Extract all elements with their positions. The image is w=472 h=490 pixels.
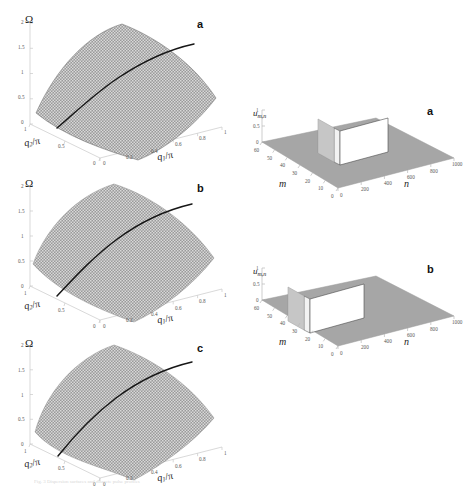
z-axis-label-left-c: Ω (25, 337, 33, 349)
y-tick-left-a-0: 0 (93, 160, 96, 166)
m-tick-right-a-0: 0 (331, 193, 334, 199)
m-tick-right-a-60: 60 (254, 147, 259, 153)
z-tick-left-b-05: 0.5 (18, 258, 24, 264)
x-tick-left-a-02: 0.2 (126, 154, 132, 160)
z-tick-left-a-15: 1.5 (18, 44, 24, 50)
z-tick-right-b-1: 1 (256, 265, 259, 271)
x-tick-left-c-1: 1 (224, 450, 227, 456)
z-tick-left-a-05: 0.5 (18, 94, 24, 100)
n-tick-right-a-0: 0 (340, 192, 343, 198)
figure-canvas: a Ω 2 1.5 1 0.5 0 1 0.5 0 0 0.2 0.4 0.6 … (0, 0, 472, 490)
x-tick-left-a-08: 0.8 (199, 135, 205, 141)
x-tick-left-b-08: 0.8 (199, 298, 205, 304)
m-tick-right-a-30: 30 (292, 170, 297, 176)
z-axis-label-left-b: Ω (25, 177, 33, 189)
m-tick-right-b-50: 50 (267, 313, 272, 319)
m-tick-right-b-40: 40 (280, 320, 285, 326)
n-tick-right-a-800: 800 (430, 168, 438, 174)
z-tick-left-c-05: 0.5 (18, 416, 24, 422)
z-tick-left-b-0: 0 (21, 283, 24, 289)
m-tick-right-b-20: 20 (305, 336, 310, 342)
n-tick-right-b-200: 200 (361, 344, 369, 350)
x-tick-left-b-06: 0.6 (175, 305, 181, 311)
panel-letter-left-c: c (197, 342, 203, 354)
m-tick-right-a-50: 50 (267, 155, 272, 161)
n-tick-right-b-800: 800 (430, 326, 438, 332)
x-tick-left-c-08: 0.8 (199, 456, 205, 462)
x-tick-left-b-0: 0 (103, 323, 106, 329)
n-tick-right-b-1000: 1000 (452, 319, 462, 325)
z-tick-left-a-1: 1 (21, 69, 24, 75)
z-tick-left-c-1: 1 (21, 392, 24, 398)
z-tick-right-a-05: 0.5 (253, 123, 259, 129)
z-tick-right-b-0: 0 (256, 297, 259, 303)
x-tick-left-b-1: 1 (224, 292, 227, 298)
z-tick-left-b-2: 2 (21, 183, 24, 189)
z-tick-left-b-15: 1.5 (18, 208, 24, 214)
n-tick-right-a-1000: 1000 (452, 161, 462, 167)
y-tick-left-c-05: 0.5 (58, 465, 64, 471)
n-tick-right-b-400: 400 (384, 338, 392, 344)
x-tick-left-c-06: 0.6 (175, 463, 181, 469)
z-tick-left-c-2: 2 (21, 342, 24, 348)
n-tick-right-b-0: 0 (340, 350, 343, 356)
z-axis-label-right-b: um,n (253, 266, 266, 277)
y-tick-left-b-0: 0 (93, 323, 96, 329)
y-tick-left-a-1: 1 (24, 126, 27, 132)
z-tick-left-c-15: 1.5 (18, 367, 24, 373)
panel-letter-right-a: a (427, 105, 433, 117)
panel-letter-right-b: b (427, 263, 434, 275)
z-tick-left-a-0: 0 (21, 119, 24, 125)
m-tick-right-b-10: 10 (318, 343, 323, 349)
x-tick-left-b-02: 0.2 (126, 317, 132, 323)
z-tick-right-a-0: 0 (256, 139, 259, 145)
y-tick-left-a-05: 0.5 (58, 143, 64, 149)
x-axis-label-left-a: q1/π (156, 149, 174, 163)
m-axis-label-right-a: m (279, 178, 286, 189)
z-tick-left-c-0: 0 (21, 441, 24, 447)
panel-letter-left-a: a (197, 18, 203, 30)
y-tick-left-b-1: 1 (24, 290, 27, 296)
n-tick-right-a-200: 200 (361, 186, 369, 192)
n-axis-label-right-b: n (404, 336, 409, 347)
x-tick-left-a-0: 0 (103, 160, 106, 166)
m-axis-label-right-b: m (279, 336, 286, 347)
n-axis-label-right-a: n (404, 178, 409, 189)
m-tick-right-b-0: 0 (331, 351, 334, 357)
x-tick-left-a-06: 0.6 (175, 141, 181, 147)
m-tick-right-a-40: 40 (280, 162, 285, 168)
y-tick-left-b-05: 0.5 (58, 307, 64, 313)
y-tick-left-c-1: 1 (24, 448, 27, 454)
m-tick-right-b-30: 30 (292, 328, 297, 334)
z-tick-left-a-2: 2 (21, 19, 24, 25)
z-tick-left-b-1: 1 (21, 233, 24, 239)
figure-caption: Fig. 3 Dispersion surfaces and discrete … (34, 479, 444, 484)
n-tick-right-a-400: 400 (384, 180, 392, 186)
z-axis-label-left-a: Ω (25, 13, 33, 25)
m-tick-right-a-20: 20 (305, 178, 310, 184)
z-axis-label-right-a: um,n (253, 108, 266, 119)
z-tick-right-a-1: 1 (256, 107, 259, 113)
m-tick-right-b-60: 60 (254, 305, 259, 311)
m-tick-right-a-10: 10 (318, 185, 323, 191)
panel-letter-left-b: b (197, 182, 204, 194)
x-tick-left-a-1: 1 (224, 129, 227, 135)
z-tick-right-b-05: 0.5 (253, 281, 259, 287)
x-axis-label-left-b: q1/π (156, 312, 174, 326)
